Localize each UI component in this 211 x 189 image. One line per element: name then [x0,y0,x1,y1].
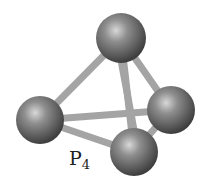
atom-right [147,86,195,134]
atom-bottom [110,128,158,176]
atom-top [96,13,146,63]
formula-label: P4 [69,147,90,172]
formula-subscript: 4 [82,157,90,172]
formula-main: P [69,147,82,169]
p4-molecule-diagram [0,0,211,189]
atom-left [16,96,64,144]
